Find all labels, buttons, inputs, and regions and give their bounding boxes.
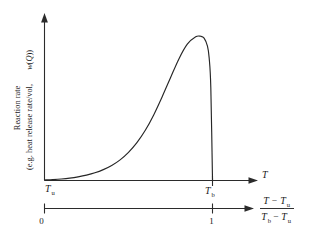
tick-label-tb: T b (205, 185, 216, 198)
x-axis-lower-arrowhead-icon (245, 205, 255, 212)
reaction-rate-figure: Reaction rate (e.g. heat release rate/vo… (0, 0, 313, 235)
y-axis-label: Reaction rate (e.g. heat release rate/vo… (13, 50, 34, 170)
x-axis-lower-fraction-label: T − T u T b − T u (260, 195, 294, 224)
tick-label-zero: 0 (39, 216, 44, 226)
y-axis-label-line2-prefix: (e.g. heat release rate/vol, (25, 84, 34, 170)
y-axis-label-line2-suffix: )) (25, 50, 34, 56)
fraction-numerator: T − T u (263, 195, 291, 208)
figure-svg: Reaction rate (e.g. heat release rate/vo… (0, 0, 313, 235)
y-axis-label-line1: Reaction rate (13, 86, 22, 131)
y-axis-group (41, 13, 48, 181)
tick-label-tu-subscript: u (52, 189, 56, 196)
fraction-denominator-a-subscript: b (268, 217, 272, 224)
y-axis-arrowhead-icon (41, 13, 48, 23)
tick-label-tu: T u (45, 183, 56, 196)
x-axis-lower-group: 0 1 (39, 204, 254, 227)
fraction-denominator-minus: − (273, 212, 278, 222)
x-axis-upper-label: T (262, 169, 269, 180)
tick-label-one: 1 (209, 216, 214, 226)
reaction-rate-curve (45, 36, 213, 180)
y-axis-label-line2: (e.g. heat release rate/vol, w ( Q )) (25, 50, 34, 170)
fraction-denominator: T b − T u (261, 211, 292, 224)
fraction-denominator-b-subscript: u (288, 217, 292, 224)
x-axis-upper-arrowhead-icon (249, 177, 259, 184)
fraction-numerator-a: T (263, 195, 270, 206)
x-axis-upper-ticks: T u T b (45, 176, 216, 198)
fraction-numerator-b-subscript: u (287, 201, 291, 208)
fraction-numerator-minus: − (272, 196, 277, 206)
tick-label-tb-subscript: b (212, 191, 216, 198)
